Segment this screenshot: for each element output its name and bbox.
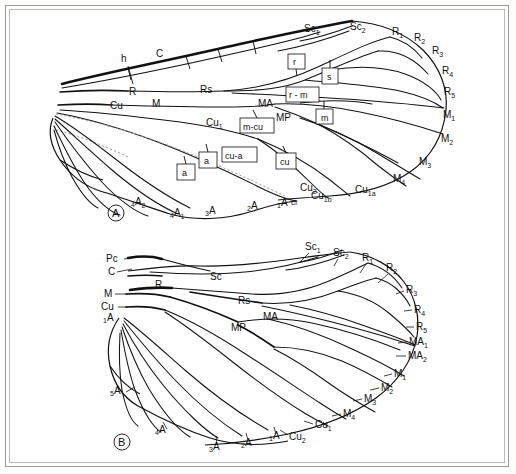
label-4a2: 4A2 <box>131 196 146 209</box>
svg-text:1A: 1A <box>103 312 114 324</box>
venation-drawing: h C R Rs Cu M MA MP Sc1 Sc2 R1 R2 R3 R4 … <box>0 0 516 474</box>
svg-text:MA2: MA2 <box>408 350 427 363</box>
svg-text:3A: 3A <box>205 205 216 217</box>
svg-text:1A: 1A <box>269 430 280 442</box>
svg-text:2A: 2A <box>247 200 258 212</box>
svg-text:M3: M3 <box>419 156 431 169</box>
cell-label-s: s <box>327 72 332 82</box>
label-3a: 3A <box>205 205 216 217</box>
label-b-sc: Sc <box>210 271 222 282</box>
cell-box-group-a <box>177 54 338 180</box>
label-b-5a: 5A <box>110 385 121 397</box>
svg-text:M2: M2 <box>441 133 453 146</box>
label-cu1a: Cu1a <box>355 184 376 197</box>
label-b-3a: 3A <box>209 441 220 453</box>
label-cu: Cu <box>110 100 123 111</box>
label-2a: 2A <box>247 200 258 212</box>
label-b-cu1: Cu1 <box>315 419 332 432</box>
svg-text:Cu1a: Cu1a <box>355 184 376 197</box>
label-b-1a-base: 1A <box>103 312 114 324</box>
label-rs: Rs <box>200 84 212 95</box>
svg-text:4A: 4A <box>155 424 166 436</box>
label-cf: cf <box>291 198 298 207</box>
label-sc2: Sc2 <box>350 21 366 34</box>
svg-text:Cu2: Cu2 <box>300 182 317 195</box>
svg-text:R4: R4 <box>442 65 453 78</box>
cell-label-m: m <box>321 113 329 123</box>
wing-venation-figure: h C R Rs Cu M MA MP Sc1 Sc2 R1 R2 R3 R4 … <box>0 0 516 474</box>
label-b-sc1: Sc1 <box>305 241 321 254</box>
panel-a-letter: A <box>112 207 120 219</box>
label-b-pc: Pc <box>106 253 118 264</box>
cell-label-cu-a: cu-a <box>225 151 243 161</box>
label-cu2: Cu2 <box>300 182 317 195</box>
svg-text:Cu2: Cu2 <box>289 431 306 444</box>
label-b-r4: R4 <box>414 304 425 317</box>
label-m3: M3 <box>419 156 431 169</box>
cell-label-a-lower: a <box>182 168 187 178</box>
svg-text:Sc1: Sc1 <box>305 241 321 254</box>
label-b-mp: MP <box>231 322 246 333</box>
label-1a: 1A <box>277 197 288 209</box>
label-m2: M2 <box>441 133 453 146</box>
label-r1: R1 <box>392 26 403 39</box>
label-b-ma1: MA1 <box>409 336 428 349</box>
cell-label-a-upper: a <box>204 156 209 166</box>
label-b-r: R <box>155 279 162 290</box>
label-b-4a: 4A <box>155 424 166 436</box>
svg-text:Cu1: Cu1 <box>315 419 332 432</box>
cell-label-m-cu: m-cu <box>243 122 263 132</box>
label-b-cu: Cu <box>101 301 114 312</box>
label-4a1: 4A1 <box>170 207 185 220</box>
svg-text:5A: 5A <box>110 385 121 397</box>
cell-label-r-m: r - m <box>289 90 308 100</box>
label-b-cu2: Cu2 <box>289 431 306 444</box>
label-b-m4: M4 <box>343 408 355 421</box>
label-b-2a: 2A <box>241 437 252 449</box>
svg-text:1A: 1A <box>277 197 288 209</box>
label-r4: R4 <box>442 65 453 78</box>
svg-text:R4: R4 <box>414 304 425 317</box>
label-mp: MP <box>276 112 291 123</box>
label-ma: MA <box>258 98 273 109</box>
panel-b-letter: B <box>118 436 125 448</box>
cell-label-r: r <box>293 57 296 67</box>
svg-text:Sc2: Sc2 <box>350 21 366 34</box>
label-b-rs: Rs <box>238 295 250 306</box>
label-h: h <box>121 53 127 64</box>
svg-text:MA1: MA1 <box>409 336 428 349</box>
svg-text:4A2: 4A2 <box>131 196 146 209</box>
label-c: C <box>156 48 163 59</box>
label-r: R <box>129 86 136 97</box>
label-b-c: C <box>108 266 115 277</box>
cell-label-cu: cu <box>280 157 290 167</box>
label-b-ma: MA <box>263 311 278 322</box>
label-b-ma2: MA2 <box>408 350 427 363</box>
svg-text:R3: R3 <box>432 45 443 58</box>
svg-text:3A: 3A <box>209 441 220 453</box>
label-b-m: M <box>104 288 112 299</box>
svg-text:M4: M4 <box>393 173 405 186</box>
panel-a-drawing <box>50 21 446 219</box>
svg-text:R1: R1 <box>392 26 403 39</box>
label-m: M <box>152 98 160 109</box>
svg-text:2A: 2A <box>241 437 252 449</box>
svg-text:M4: M4 <box>343 408 355 421</box>
label-m4: M4 <box>393 173 405 186</box>
label-b-1a: 1A <box>269 430 280 442</box>
svg-text:4A1: 4A1 <box>170 207 185 220</box>
label-r3: R3 <box>432 45 443 58</box>
